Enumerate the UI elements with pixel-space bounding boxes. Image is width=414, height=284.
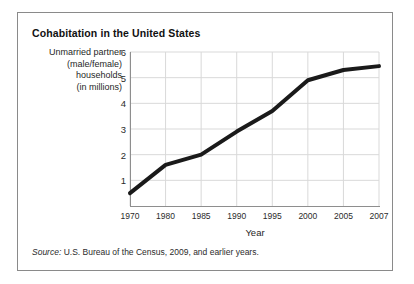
source-label: Source: xyxy=(32,247,61,257)
source-note: Source: U.S. Bureau of the Census, 2009,… xyxy=(32,247,259,257)
x-axis-line xyxy=(130,206,380,207)
x-axis-title: Year xyxy=(130,227,380,238)
x-tick-label: 1985 xyxy=(192,211,211,221)
y-axis-tick-labels: 123456 xyxy=(102,52,126,206)
y-tick-label: 1 xyxy=(104,175,126,186)
x-tick-label: 1990 xyxy=(227,211,246,221)
x-tick-label: 1980 xyxy=(156,211,175,221)
x-tick-label: 2007 xyxy=(370,211,389,221)
chart-title: Cohabitation in the United States xyxy=(32,27,200,39)
x-tick-label: 2000 xyxy=(298,211,317,221)
data-series-line xyxy=(130,52,379,206)
x-axis-tick-labels: 19701980198519901995200020052007 xyxy=(130,211,380,225)
plot-area xyxy=(130,52,379,206)
y-tick-label: 5 xyxy=(104,72,126,83)
x-tick-label: 1995 xyxy=(263,211,282,221)
source-text: U.S. Bureau of the Census, 2009, and ear… xyxy=(61,247,259,257)
x-tick-label: 1970 xyxy=(121,211,140,221)
y-tick-label: 6 xyxy=(104,47,126,58)
figure-frame: Cohabitation in the United States Unmarr… xyxy=(17,12,393,271)
y-tick-label: 2 xyxy=(104,149,126,160)
y-tick-label: 4 xyxy=(104,98,126,109)
x-tick-label: 2005 xyxy=(334,211,353,221)
y-tick-label: 3 xyxy=(104,124,126,135)
